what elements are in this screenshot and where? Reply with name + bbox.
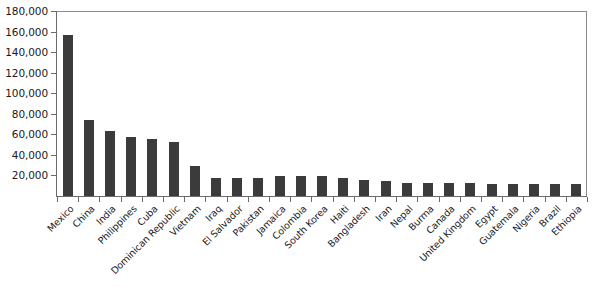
- y-tick-label: 20,000: [12, 170, 48, 180]
- bar: [232, 178, 242, 197]
- y-tick-mark: [51, 175, 57, 176]
- y-tick-mark: [51, 93, 57, 94]
- y-tick-label: 140,000: [5, 47, 48, 57]
- y-tick-mark: [51, 52, 57, 53]
- y-tick-label: 60,000: [12, 129, 48, 139]
- bar-chart: 180,000160,000140,000120,000100,00080,00…: [0, 0, 606, 287]
- y-axis: 180,000160,000140,000120,000100,00080,00…: [0, 0, 50, 200]
- y-tick-label: 40,000: [12, 150, 48, 160]
- y-tick-label: 80,000: [12, 109, 48, 119]
- y-tick-mark: [51, 114, 57, 115]
- x-tick-label-text: Mexico: [45, 203, 76, 234]
- y-tick-mark: [51, 155, 57, 156]
- bar: [126, 137, 136, 196]
- y-tick-mark: [51, 11, 57, 12]
- x-axis-labels: MexicoChinaIndiaPhilippinesCubaDominican…: [57, 203, 606, 287]
- y-tick-label: 180,000: [5, 6, 48, 16]
- x-tick-mark: [57, 197, 58, 202]
- bar: [63, 35, 73, 196]
- y-tick-label: 160,000: [5, 27, 48, 37]
- y-tick-mark: [51, 134, 57, 135]
- y-tick-label: 120,000: [5, 68, 48, 78]
- y-tick-mark: [51, 32, 57, 33]
- y-tick-label: 100,000: [5, 88, 48, 98]
- y-tick-mark: [51, 73, 57, 74]
